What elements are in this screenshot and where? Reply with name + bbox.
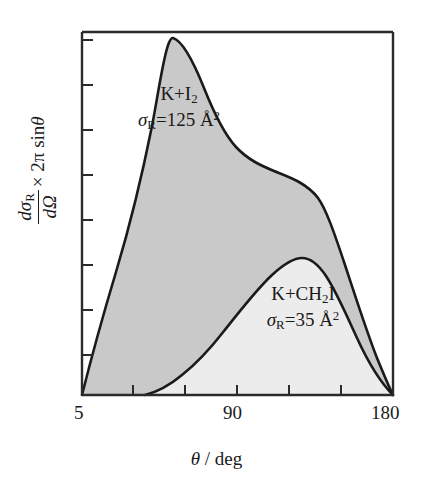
annotation-k-ch2i-prefix: K+CH: [271, 283, 322, 304]
annotation-k-i2-sigma-symbol: σ: [138, 109, 147, 130]
annotation-k-i2: K+I2 σR=125 Å2: [104, 82, 254, 134]
annotation-k-ch2i-exponent: 2: [333, 308, 339, 323]
x-axis-separator: /: [200, 448, 215, 469]
y-axis-label: dσR dΩ × 2π sin θ: [18, 70, 58, 270]
y-axis-ticks: [82, 40, 93, 355]
y-axis-denominator-omega: Ω: [39, 195, 60, 209]
y-axis-numerator-text: dσ: [14, 202, 35, 221]
chart-figure: 5 90 180 θ / deg dσR dΩ × 2π sin θ K+I2 …: [0, 0, 433, 488]
annotation-k-ch2i: K+CH2I σR=35 Å2: [228, 282, 378, 334]
y-axis-theta: θ: [27, 116, 49, 125]
annotation-k-i2-value: =125 Å: [156, 109, 214, 130]
annotation-k-ch2i-sigma-sub: R: [276, 317, 285, 332]
annotation-k-i2-formula: K+I2: [104, 82, 254, 108]
annotation-k-i2-exponent: 2: [214, 108, 220, 123]
annotation-k-ch2i-sigma: σR=35 Å2: [228, 308, 378, 334]
y-axis-denominator: dΩ: [39, 192, 61, 221]
annotation-k-i2-sigma-sub: R: [147, 117, 156, 132]
annotation-k-i2-sub: 2: [191, 91, 197, 106]
y-axis-tail: × 2π sin: [27, 126, 49, 187]
annotation-k-i2-prefix: K+I: [160, 83, 191, 104]
annotation-k-i2-sigma: σR=125 Å2: [104, 108, 254, 134]
x-tick-label-max: 180: [371, 402, 400, 424]
y-axis-denominator-d: d: [39, 209, 60, 219]
y-axis-numerator: dσR: [15, 190, 39, 223]
x-axis-unit: deg: [215, 448, 242, 469]
x-tick-label-mid: 90: [223, 402, 242, 424]
y-axis-fraction: dσR dΩ: [15, 190, 61, 223]
annotation-k-ch2i-formula: K+CH2I: [228, 282, 378, 308]
x-axis-label: θ / deg: [0, 448, 433, 470]
annotation-k-ch2i-value: =35 Å: [285, 309, 333, 330]
scattering-plot: [0, 0, 433, 488]
x-tick-label-min: 5: [74, 402, 84, 424]
y-axis-numerator-sub: R: [22, 193, 37, 202]
annotation-k-ch2i-sigma-symbol: σ: [267, 309, 276, 330]
x-axis-theta: θ: [191, 448, 200, 469]
annotation-k-ch2i-suffix: I: [328, 283, 334, 304]
